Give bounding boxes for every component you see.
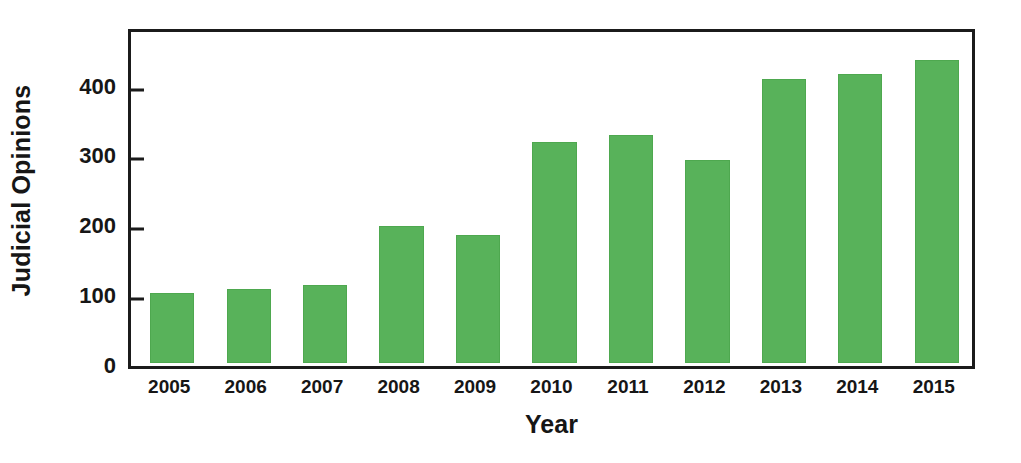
y-axis-tick-label: 100: [79, 283, 116, 309]
y-axis-tick-label: 200: [79, 213, 116, 239]
y-axis-title: Judicial Opinions: [0, 0, 44, 380]
bar: [227, 289, 271, 363]
bar: [532, 142, 576, 364]
x-axis-tick-label: 2007: [301, 376, 343, 398]
y-axis-tick-labels: 0100200300400: [46, 0, 122, 463]
x-axis-tick-label: 2008: [377, 376, 419, 398]
bar: [762, 79, 806, 363]
plot-area: [128, 29, 975, 369]
x-axis-tick-label: 2014: [836, 376, 878, 398]
x-axis-tick-labels: 2005200620072008200920102011201220132014…: [128, 376, 975, 406]
y-axis-tick-label: 300: [79, 143, 116, 169]
x-axis-tick-label: 2010: [530, 376, 572, 398]
bar: [456, 235, 500, 363]
x-axis-tick-label: 2009: [454, 376, 496, 398]
x-axis-tick-label: 2006: [225, 376, 267, 398]
y-axis-title-text: Judicial Opinions: [8, 84, 37, 296]
bar: [150, 293, 194, 363]
bar: [915, 60, 959, 363]
bar: [303, 285, 347, 363]
bar-chart: Judicial Opinions 0100200300400 20052006…: [0, 0, 1021, 463]
x-axis-tick-label: 2013: [760, 376, 802, 398]
x-axis-title: Year: [128, 410, 975, 439]
x-axis-tick-label: 2011: [607, 376, 648, 398]
bar: [685, 160, 729, 363]
x-axis-tick-label: 2015: [913, 376, 955, 398]
bar: [838, 74, 882, 363]
y-axis-tick-label: 400: [79, 74, 116, 100]
y-axis-tick-label: 0: [104, 353, 116, 379]
x-axis-tick-label: 2005: [148, 376, 190, 398]
bar: [379, 226, 423, 363]
bars-layer: [131, 32, 972, 366]
x-axis-tick-label: 2012: [683, 376, 725, 398]
bar: [609, 135, 653, 363]
